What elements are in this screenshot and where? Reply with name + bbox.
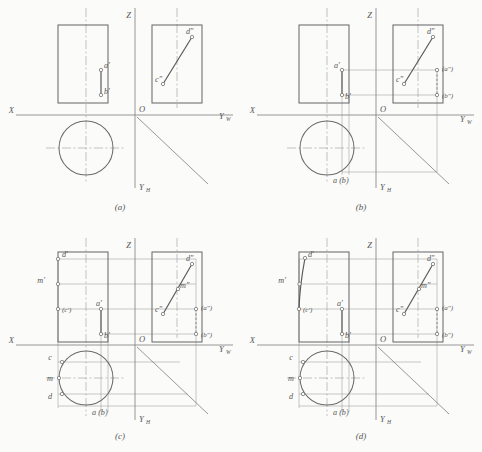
axis-label-x: X [249, 335, 256, 345]
label-c-double-prime: c″ [155, 305, 163, 314]
axis-label-yh-sub: H [145, 419, 151, 425]
label-c-double-prime: c″ [155, 75, 163, 84]
axis-label-z: Z [367, 10, 372, 20]
axis-45-miter [378, 347, 449, 414]
axis-label-x: X [249, 105, 256, 115]
segment-c-d-side [404, 37, 433, 84]
label-a-double-prime-hidden: (a″) [442, 304, 454, 312]
axis-label-yw-sub: W [467, 349, 473, 355]
panel-caption-d: (d) [356, 431, 367, 441]
node-d-prime [303, 256, 306, 259]
figure-sheet: X Z O Y W Y H a′ b′ c″ d″ (a) [0, 0, 482, 452]
node-b-prime [340, 332, 343, 335]
node-a-prime [99, 68, 102, 71]
label-d-top-view: d [48, 392, 53, 401]
label-m-prime: m′ [37, 276, 45, 285]
axis-label-origin: O [139, 104, 145, 114]
node-b-double-prime [435, 332, 438, 335]
label-d-top-view: d [289, 392, 294, 401]
node-a-prime [340, 68, 343, 71]
axis-label-origin: O [380, 334, 386, 344]
panel-a: X Z O Y W Y H a′ b′ c″ d″ (a) [0, 0, 241, 226]
label-c-double-prime: c″ [396, 75, 404, 84]
node-b-prime [99, 93, 102, 96]
panel-d: X Z O Y W Y H d′ m′ (c′) a′ b′ c″ d″ m″ … [241, 226, 482, 452]
label-a-prime: a′ [334, 61, 340, 70]
axis-45-miter [137, 347, 208, 414]
axis-label-yw-sub: W [226, 116, 232, 122]
node-m-prime [56, 282, 59, 285]
panel-b: X Z O Y W Y H a′ b′ c″ d″ (a″) (b″) a (b… [241, 0, 482, 226]
label-d-double-prime: d″ [427, 27, 435, 36]
label-c-double-prime: c″ [396, 305, 404, 314]
label-m-prime: m′ [278, 276, 286, 285]
label-m-double-prime: m″ [180, 281, 190, 290]
label-a-b-top-view: a (b) [333, 408, 349, 417]
panel-caption-a: (a) [115, 202, 126, 212]
label-d-prime: d′ [62, 250, 68, 259]
axis-label-yw: Y [219, 111, 225, 121]
axis-label-yh: Y [139, 182, 145, 192]
label-c-prime-hidden: (c′) [303, 306, 313, 314]
label-m-top-view: m [47, 374, 53, 383]
axis-label-yw: Y [460, 344, 466, 354]
label-m-double-prime: m″ [421, 281, 431, 290]
axis-label-yh-sub: H [386, 419, 392, 425]
node-b-double-prime [194, 332, 197, 335]
label-b-double-prime-hidden: (b″) [201, 331, 213, 339]
panel-caption-b: (b) [356, 202, 367, 212]
axis-label-yw-sub: W [226, 349, 232, 355]
axis-label-z: Z [367, 240, 372, 250]
label-d-double-prime: d″ [186, 27, 194, 36]
label-d-double-prime: d″ [186, 254, 194, 263]
node-b-prime [99, 332, 102, 335]
axis-label-x: X [8, 335, 15, 345]
node-d-top [301, 392, 304, 395]
axis-label-yw-sub: W [467, 119, 473, 125]
panel-c: X Z O Y W Y H d′ m′ (c′) a′ b′ c″ d″ m″ … [0, 226, 241, 452]
axis-label-yw: Y [460, 114, 466, 124]
node-c-top [60, 360, 63, 363]
node-a-double-prime [194, 307, 197, 310]
axis-label-origin: O [380, 104, 386, 114]
node-b-double-prime [435, 93, 438, 96]
segment-c-d-side [163, 37, 192, 84]
label-a-prime: a′ [337, 299, 343, 308]
label-b-prime: b′ [104, 87, 110, 96]
label-d-prime: d′ [308, 250, 314, 259]
axis-label-yw: Y [219, 344, 225, 354]
label-b-prime: b′ [104, 331, 110, 340]
label-b-prime: b′ [345, 92, 351, 101]
node-a-double-prime [435, 307, 438, 310]
label-a-b-top-view: a (b) [333, 176, 349, 185]
label-b-double-prime-hidden: (b″) [442, 331, 454, 339]
label-a-b-top-view: a (b) [92, 408, 108, 417]
node-b-prime [340, 93, 343, 96]
panel-caption-c: (c) [115, 431, 125, 441]
node-c-top [301, 360, 304, 363]
axis-label-z: Z [126, 240, 131, 250]
node-d-prime [56, 257, 59, 260]
axis-label-x: X [8, 105, 15, 115]
label-a-double-prime-hidden: (a″) [201, 304, 213, 312]
label-c-prime-hidden: (c′) [62, 306, 72, 314]
label-d-double-prime: d″ [427, 254, 435, 263]
axis-45-miter [137, 117, 208, 184]
label-b-prime: b′ [345, 331, 351, 340]
label-b-double-prime-hidden: (b″) [442, 92, 454, 100]
node-d-top [60, 392, 63, 395]
axis-label-z: Z [126, 10, 131, 20]
axis-label-yh: Y [380, 414, 386, 424]
label-c-top-view: c [48, 353, 52, 362]
axis-label-origin: O [139, 334, 145, 344]
node-m-top [57, 376, 60, 379]
label-a-double-prime-hidden: (a″) [442, 65, 454, 73]
node-m-top [298, 376, 301, 379]
axis-label-yh: Y [380, 182, 386, 192]
node-a-double-prime [435, 68, 438, 71]
axis-45-miter [378, 117, 449, 184]
axis-label-yh-sub: H [145, 187, 151, 193]
axis-label-yh: Y [139, 414, 145, 424]
axis-label-yh-sub: H [386, 187, 392, 193]
node-c-prime [56, 307, 59, 310]
